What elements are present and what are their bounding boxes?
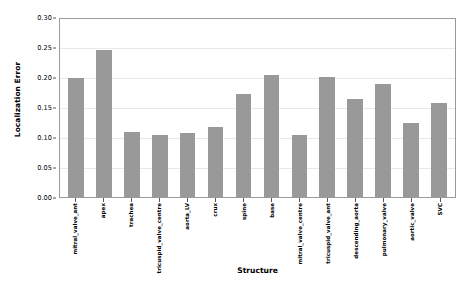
x-label-slot: mitral_valve_ant (61, 203, 89, 261)
x-label-slot: mitral_valve_centre (286, 203, 314, 261)
y-axis-tick-mark (53, 48, 56, 49)
x-tick-slot (342, 198, 370, 202)
x-axis-tick-mark (411, 198, 412, 202)
x-label-slot: SVC (426, 203, 454, 261)
y-axis-tick-mark (53, 168, 56, 169)
x-label-slot: aorta_LV (173, 203, 201, 261)
x-tick-slot (89, 198, 117, 202)
x-axis-tick-mark (383, 198, 384, 202)
bar (403, 123, 419, 197)
bar-series (60, 19, 455, 197)
y-axis-tick-mark (53, 198, 56, 199)
bar (292, 135, 308, 197)
x-label-slot: spine (229, 203, 257, 261)
x-label-slot: tricuspid_valve_ant (314, 203, 342, 261)
x-axis-tick-marks (59, 198, 456, 202)
plot-area (59, 18, 456, 198)
bar (375, 84, 391, 197)
x-axis-tick-mark (355, 198, 356, 202)
x-axis-tick-label: base (269, 203, 275, 218)
x-tick-slot (314, 198, 342, 202)
x-axis-tick-mark (299, 198, 300, 202)
y-axis-tick-label: 0.05 (37, 164, 52, 172)
x-axis-tick-mark (327, 198, 328, 202)
x-axis-tick-mark (243, 198, 244, 202)
y-axis-title-text: Localization Error (14, 61, 23, 136)
bar (319, 77, 335, 197)
bar (347, 99, 363, 197)
bar (208, 127, 224, 197)
y-axis-tick-label: 0.30 (37, 14, 52, 22)
x-axis-tick-label: SVC (437, 203, 443, 215)
x-axis-tick-label: tricuspid_valve_centre (156, 203, 162, 274)
x-label-slot: tricuspid_valve_centre (145, 203, 173, 261)
bar-slot (285, 19, 313, 197)
x-axis-tick-label: mitral_valve_ant (72, 203, 78, 255)
x-axis-tick-label: apex (100, 203, 106, 218)
x-tick-slot (61, 198, 89, 202)
bar-slot (146, 19, 174, 197)
x-axis-title: Structure (59, 266, 456, 275)
x-axis-tick-mark (271, 198, 272, 202)
bar (180, 133, 196, 197)
bar-slot (397, 19, 425, 197)
bar (152, 135, 168, 197)
bar-slot (202, 19, 230, 197)
x-tick-slot (258, 198, 286, 202)
y-axis-tick-mark (53, 138, 56, 139)
x-axis-tick-mark (440, 198, 441, 202)
bar-slot (425, 19, 453, 197)
x-axis-tick-label: crux (212, 203, 218, 217)
x-axis-tick-mark (159, 198, 160, 202)
x-tick-slot (426, 198, 454, 202)
x-axis-tick-label: spine (241, 203, 247, 220)
x-axis-tick-mark (75, 198, 76, 202)
x-tick-slot (145, 198, 173, 202)
x-axis-tick-label: descending_aorta (353, 203, 359, 259)
y-axis-tick-label: 0.15 (37, 104, 52, 112)
x-tick-slot (370, 198, 398, 202)
x-tick-slot (173, 198, 201, 202)
x-axis-tick-mark (187, 198, 188, 202)
x-axis-tick-labels: mitral_valve_antapextracheatricuspid_val… (59, 203, 456, 261)
bar-slot (230, 19, 258, 197)
bar-slot (313, 19, 341, 197)
x-label-slot: apex (89, 203, 117, 261)
x-axis-tick-label: pulmonary_valve (381, 203, 387, 256)
x-tick-slot (201, 198, 229, 202)
x-label-slot: aortic_valve (398, 203, 426, 261)
x-axis-tick-label: tricuspid_valve_ant (325, 203, 331, 264)
bar (431, 103, 447, 197)
bar-slot (90, 19, 118, 197)
bar-slot (174, 19, 202, 197)
x-label-slot: crux (201, 203, 229, 261)
bar-slot (62, 19, 90, 197)
bar (96, 50, 112, 197)
y-axis-tick-mark (53, 108, 56, 109)
bar-slot (341, 19, 369, 197)
x-axis-tick-label: aorta_LV (184, 203, 190, 230)
x-axis-tick-label: mitral_valve_centre (297, 203, 303, 264)
y-axis-tick-label: 0.25 (37, 44, 52, 52)
bar (236, 94, 252, 197)
x-axis-tick-label: aortic_valve (409, 203, 415, 241)
bar (68, 78, 84, 197)
y-axis-tick-label: 0.10 (37, 134, 52, 142)
x-axis-tick-mark (131, 198, 132, 202)
bar-chart-figure: Localization Error 0.000.050.100.150.200… (0, 0, 476, 291)
x-tick-slot (286, 198, 314, 202)
y-axis-title: Localization Error (8, 0, 28, 198)
bar-slot (369, 19, 397, 197)
bar (264, 75, 280, 197)
x-label-slot: base (258, 203, 286, 261)
bar-slot (257, 19, 285, 197)
bar (124, 132, 140, 197)
y-axis-tick-mark (53, 18, 56, 19)
y-axis-tick-label: 0.00 (37, 194, 52, 202)
x-label-slot: trachea (117, 203, 145, 261)
x-tick-slot (398, 198, 426, 202)
x-axis-tick-mark (103, 198, 104, 202)
x-axis-tick-label: trachea (128, 203, 134, 227)
y-axis-tick-label: 0.20 (37, 74, 52, 82)
y-axis-tick-labels: 0.000.050.100.150.200.250.30 (26, 18, 56, 198)
